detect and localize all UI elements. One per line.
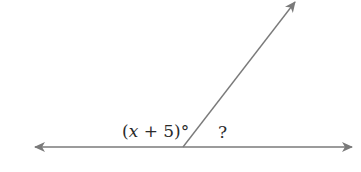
angle-ray <box>183 2 295 147</box>
angle-diagram <box>0 0 361 172</box>
angle-label-rest: + 5)° <box>138 121 189 141</box>
angle-label-unknown: ? <box>218 124 227 141</box>
angle-label-open-paren: ( <box>122 121 129 141</box>
angle-label-variable: x <box>129 121 139 141</box>
angle-label-left: (x + 5)° <box>122 123 189 140</box>
